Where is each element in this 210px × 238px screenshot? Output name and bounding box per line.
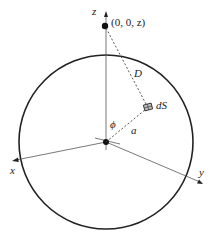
angle-label: ϕ	[110, 118, 116, 130]
x-axis-label: x	[9, 164, 15, 176]
y-axis-label: y	[198, 166, 204, 178]
distance-label: D	[133, 67, 142, 79]
y-axis-arrowhead	[197, 180, 203, 185]
x-axis	[16, 142, 106, 160]
sphere-diagram: z (0, 0, z) D dS ϕ a x y	[0, 0, 210, 238]
point-label: (0, 0, z)	[111, 16, 146, 29]
y-axis	[106, 142, 200, 182]
distance-line-D	[106, 28, 146, 104]
x-axis-arrowhead	[12, 158, 19, 163]
z-axis-label: z	[91, 5, 97, 17]
surface-element-label: dS	[156, 99, 168, 111]
surface-element-icon	[143, 103, 152, 111]
z-axis-arrowhead	[104, 11, 108, 17]
point-on-z-axis	[102, 23, 108, 29]
diagram-canvas: z (0, 0, z) D dS ϕ a x y	[0, 0, 210, 238]
radius-label: a	[131, 124, 137, 136]
